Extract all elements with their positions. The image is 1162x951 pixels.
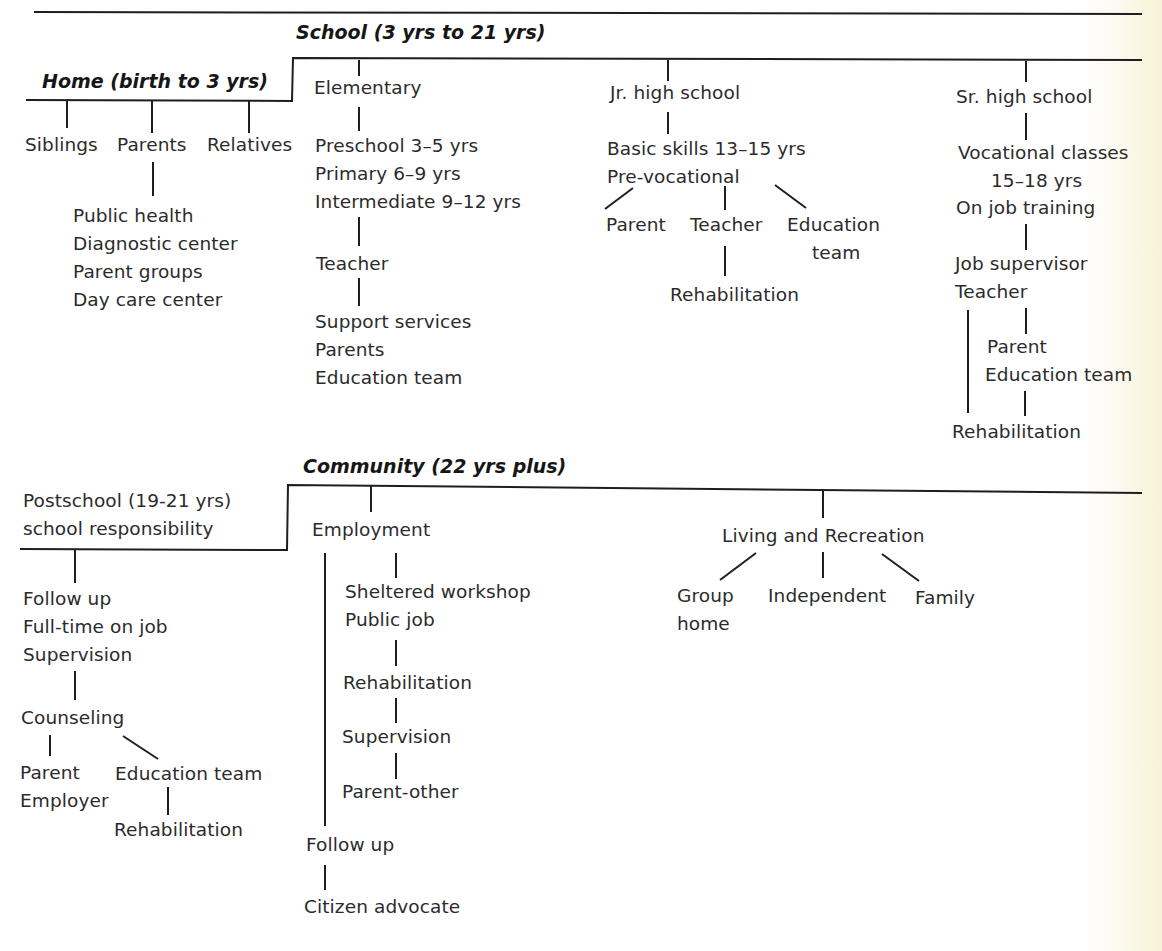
postschool-title: Postschool (19-21 yrs)	[23, 487, 231, 515]
postschool-followup: Follow up Full-time on job Supervision	[23, 585, 168, 669]
ps-rehabilitation: Rehabilitation	[114, 816, 243, 844]
resource-diagnostic-center: Diagnostic center	[73, 230, 238, 258]
sr-supervisors: Job supervisor Teacher	[955, 250, 1088, 306]
parents-resources: Public health Diagnostic center Parent g…	[73, 202, 238, 314]
jr-branch-education: Education	[787, 211, 880, 239]
sr-parent: Parent	[985, 333, 1132, 361]
ps-education-team: Education team	[115, 760, 262, 788]
resource-day-care-center: Day care center	[73, 286, 238, 314]
ps-follow-up: Follow up	[23, 585, 168, 613]
living-label: Living and Recreation	[722, 522, 925, 550]
support-education-team: Education team	[315, 364, 472, 392]
emp-supervision: Supervision	[342, 723, 451, 751]
elementary-teacher: Teacher	[316, 250, 388, 278]
elementary-label: Elementary	[314, 74, 421, 102]
ps-supervision: Supervision	[23, 641, 168, 669]
elementary-levels: Preschool 3–5 yrs Primary 6–9 yrs Interm…	[315, 132, 521, 216]
support-parents: Parents	[315, 336, 472, 364]
elementary-support: Support services Parents Education team	[315, 308, 472, 392]
jr-high-label: Jr. high school	[610, 79, 740, 107]
ps-parent: Parent	[20, 759, 109, 787]
home-relatives: Relatives	[207, 131, 292, 159]
school-heading: School (3 yrs to 21 yrs)	[296, 21, 545, 43]
sr-education-team: Education team	[985, 361, 1132, 389]
resource-public-health: Public health	[73, 202, 238, 230]
sr-rehabilitation: Rehabilitation	[952, 418, 1081, 446]
sr-vocational-ages: 15–18 yrs	[991, 167, 1082, 195]
support-services: Support services	[315, 308, 472, 336]
jr-rehabilitation: Rehabilitation	[670, 281, 799, 309]
level-intermediate: Intermediate 9–12 yrs	[315, 188, 521, 216]
sr-vocational-classes: Vocational classes	[958, 139, 1129, 167]
postschool-subtitle: school responsibility	[23, 515, 231, 543]
jr-high-levels: Basic skills 13–15 yrs Pre-vocational	[607, 135, 806, 191]
emp-parent-other: Parent-other	[342, 778, 459, 806]
employment-jobs: Sheltered workshop Public job	[345, 578, 531, 634]
living-group-home: Group home	[677, 582, 734, 638]
sr-on-job-training: On job training	[956, 194, 1095, 222]
level-primary: Primary 6–9 yrs	[315, 160, 521, 188]
community-heading: Community (22 yrs plus)	[303, 455, 566, 477]
resource-parent-groups: Parent groups	[73, 258, 238, 286]
ps-employer: Employer	[20, 787, 109, 815]
ps-parent-employer: Parent Employer	[20, 759, 109, 815]
jr-branch-parent: Parent	[606, 211, 666, 239]
home-heading: Home (birth to 3 yrs)	[42, 70, 268, 92]
home-parents: Parents	[117, 131, 187, 159]
jr-branch-team: team	[812, 239, 860, 267]
home-siblings: Siblings	[25, 131, 98, 159]
living-home: home	[677, 610, 734, 638]
job-public: Public job	[345, 606, 531, 634]
level-preschool: Preschool 3–5 yrs	[315, 132, 521, 160]
living-independent: Independent	[768, 582, 886, 610]
emp-citizen-advocate: Citizen advocate	[304, 893, 460, 921]
postschool-heading: Postschool (19-21 yrs) school responsibi…	[23, 487, 231, 543]
level-pre-vocational: Pre-vocational	[607, 163, 806, 191]
emp-rehabilitation: Rehabilitation	[343, 669, 472, 697]
living-family: Family	[915, 584, 975, 612]
employment-label: Employment	[312, 516, 430, 544]
sr-high-label: Sr. high school	[956, 83, 1092, 111]
ps-full-time: Full-time on job	[23, 613, 168, 641]
sr-teacher: Teacher	[955, 278, 1088, 306]
ps-counseling: Counseling	[21, 704, 124, 732]
sr-parent-team: Parent Education team	[985, 333, 1132, 389]
emp-follow-up: Follow up	[306, 831, 394, 859]
jr-branch-teacher: Teacher	[690, 211, 762, 239]
sr-job-supervisor: Job supervisor	[955, 250, 1088, 278]
level-basic-skills: Basic skills 13–15 yrs	[607, 135, 806, 163]
job-sheltered-workshop: Sheltered workshop	[345, 578, 531, 606]
living-group: Group	[677, 582, 734, 610]
